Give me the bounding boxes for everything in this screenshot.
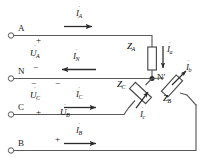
phasor-dot-in: ˙	[75, 48, 77, 55]
wire-phase-c-bend	[124, 108, 129, 115]
wire-phase-b-bend	[187, 95, 196, 105]
current-label-ia-load: ˙Ia	[167, 45, 173, 54]
current-label-ic-load: ˙Ic	[140, 110, 146, 119]
impedance-box-zc-group	[130, 82, 152, 103]
current-sub-in: N	[76, 56, 80, 62]
phasor-dot-ib: ˙	[78, 122, 80, 129]
current-sub-ib-load: b	[189, 67, 192, 73]
terminal-dot-b[interactable]	[8, 148, 13, 153]
polarity-plus-c: +	[36, 108, 41, 117]
impedance-box-zc	[130, 82, 152, 103]
wire-zc-to-phase-c	[129, 101, 136, 109]
impedance-sub-za: A	[132, 46, 136, 52]
phasor-dot-ua: ˙	[34, 44, 36, 51]
wire-node-to-zc	[146, 79, 153, 86]
terminal-dot-n[interactable]	[8, 76, 13, 81]
polarity-plus-a: +	[36, 36, 41, 45]
voltage-sub-ub: B	[66, 112, 70, 118]
phasor-dot-ub: ˙	[64, 103, 66, 110]
current-sub-ia-load: a	[170, 49, 173, 55]
wire-zb-to-phase-b	[180, 93, 187, 95]
terminal-dot-a[interactable]	[8, 33, 13, 38]
impedance-sub-zb: B	[168, 98, 172, 104]
impedance-label-zb: ZB	[163, 93, 172, 103]
terminal-label-c: C	[18, 103, 24, 112]
phasor-dot-ic-load: ˙	[141, 106, 143, 113]
polarity-minus-c-second: −	[55, 79, 60, 88]
impedance-box-za	[148, 47, 157, 70]
voltage-label-ua: ˙UA	[30, 48, 40, 58]
phasor-dot-ic: ˙	[78, 86, 80, 93]
terminal-label-b: B	[18, 139, 24, 148]
node-label-n-prime: N′	[157, 73, 165, 82]
terminal-label-a: A	[18, 24, 25, 33]
terminal-label-n: N	[18, 67, 25, 76]
current-label-ib-load: ˙Ib	[186, 63, 192, 72]
voltage-label-uc: ˙UC	[30, 90, 41, 100]
current-sub-ib: B	[79, 130, 83, 136]
current-sub-ic: C	[79, 94, 83, 100]
current-sub-ia: A	[79, 13, 83, 19]
impedance-label-za: ZA	[127, 41, 136, 51]
voltage-sub-ua: A	[36, 53, 40, 59]
phasor-dot-uc: ˙	[34, 86, 36, 93]
current-sub-ic-load: c	[143, 114, 146, 120]
polarity-plus-b: +	[55, 135, 60, 144]
polarity-minus-a: −	[33, 63, 38, 72]
impedance-label-zc: ZC	[117, 79, 126, 89]
phasor-dot-ib-load: ˙	[188, 59, 190, 66]
current-label-ib: ˙IB	[76, 126, 83, 135]
current-label-in: ˙IN	[73, 52, 80, 61]
phasor-dot-ia: ˙	[78, 5, 80, 12]
impedance-sub-zc: C	[122, 84, 126, 90]
circuit-diagram: A N C B N′ + − − − + + ˙UA ˙UC ˙UB ˙IA ˙…	[0, 0, 208, 158]
phasor-dot-ia-load: ˙	[169, 41, 171, 48]
terminal-dot-c[interactable]	[8, 112, 13, 117]
voltage-sub-uc: C	[36, 95, 40, 101]
current-label-ia: ˙IA	[76, 9, 83, 18]
voltage-label-ub: ˙UB	[60, 107, 70, 117]
current-label-ic: ˙IC	[76, 90, 83, 99]
